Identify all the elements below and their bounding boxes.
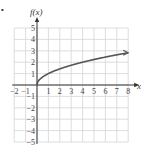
y-tick-label: 5 bbox=[31, 24, 35, 33]
y-tick-label: 4 bbox=[31, 35, 35, 44]
x-tick-label: 5 bbox=[92, 87, 96, 96]
x-tick-label: 1 bbox=[46, 87, 50, 96]
x-tick-label: 8 bbox=[126, 87, 130, 96]
y-tick-label: −2 bbox=[26, 104, 35, 113]
y-axis-label: f(x) bbox=[30, 7, 43, 17]
x-tick-label: 6 bbox=[103, 87, 107, 96]
y-tick-label: −5 bbox=[26, 138, 35, 147]
y-tick-label: 1 bbox=[31, 70, 35, 79]
item-bullet: • bbox=[1, 5, 4, 14]
y-tick-label: −3 bbox=[26, 115, 35, 124]
y-tick-label: 2 bbox=[31, 58, 35, 67]
x-tick-label: −2 bbox=[10, 87, 19, 96]
y-tick-label: −4 bbox=[26, 127, 35, 136]
x-axis-label: x bbox=[136, 81, 141, 91]
x-tick-label: 2 bbox=[58, 87, 62, 96]
x-tick-label: 4 bbox=[81, 87, 85, 96]
y-tick-label: −1 bbox=[26, 92, 35, 101]
function-graph: • −2−112345678 −5−4−3−2−112345 f(x) x bbox=[0, 0, 143, 155]
x-tick-label: 7 bbox=[115, 87, 119, 96]
x-tick-label: 3 bbox=[69, 87, 73, 96]
y-tick-label: 3 bbox=[31, 47, 35, 56]
